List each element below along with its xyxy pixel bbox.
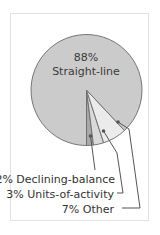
dot-declining xyxy=(89,134,93,138)
dot-other xyxy=(116,120,120,124)
label-other: 7% Other xyxy=(62,203,115,216)
label-declining-balance: 2% Declining-balance xyxy=(0,173,115,186)
pie-chart: 88% Straight-line 2% Declining-balance 3… xyxy=(0,0,160,235)
dot-units xyxy=(102,129,106,133)
label-units-of-activity: 3% Units-of-activity xyxy=(6,188,114,201)
main-slice-name: Straight-line xyxy=(52,65,120,78)
main-slice-percent: 88% xyxy=(74,51,98,64)
leader-other xyxy=(118,122,140,208)
